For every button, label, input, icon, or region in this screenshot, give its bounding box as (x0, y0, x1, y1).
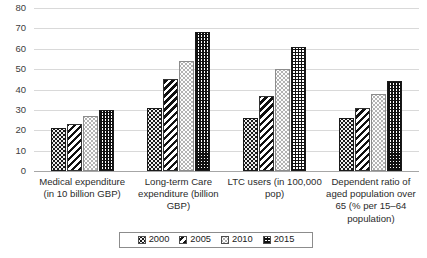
bar-group (227, 8, 323, 171)
y-tick-label-0: 0 (21, 166, 26, 176)
y-tick-label-20: 20 (15, 126, 26, 136)
category-label: Medical expenditure(in 10 billion GBP) (28, 176, 136, 200)
bar-2005 (67, 124, 82, 171)
bar-2000 (51, 128, 66, 171)
category-label-line: GBP) (124, 200, 232, 212)
bar-2010 (275, 69, 290, 171)
legend-swatch-icon (138, 236, 146, 244)
legend-item-2015[interactable]: 2015 (263, 235, 295, 244)
bar-2010 (179, 61, 194, 171)
category-label-line: Medical expenditure (28, 176, 136, 188)
y-axis-tick-labels: 01020304050607080 (0, 8, 30, 171)
legend-item-2000[interactable]: 2000 (138, 235, 170, 244)
legend-label: 2015 (274, 235, 295, 244)
legend-swatch-icon (221, 236, 229, 244)
category-label-line: LTC users (in 100,000 (221, 176, 329, 188)
bar-group (130, 8, 226, 171)
bar-2015 (195, 32, 210, 171)
legend-swatch-icon (179, 236, 187, 244)
bar-2015 (291, 47, 306, 171)
y-tick-label-10: 10 (15, 146, 26, 156)
bars-layer (34, 8, 419, 171)
y-tick-label-50: 50 (15, 64, 26, 74)
y-tick-label-30: 30 (15, 105, 26, 115)
legend-swatch-icon (263, 236, 271, 244)
bar-2000 (147, 108, 162, 171)
category-label: LTC users (in 100,000pop) (221, 176, 329, 200)
category-label-line: Long-term Care (124, 176, 232, 188)
bar-2000 (339, 118, 354, 171)
bar-2005 (259, 96, 274, 171)
category-label-line: pop) (221, 188, 329, 200)
category-label-line: Dependent ratio of (317, 176, 425, 188)
bar-2015 (99, 110, 114, 171)
y-tick-label-60: 60 (15, 44, 26, 54)
legend-item-2010[interactable]: 2010 (221, 235, 253, 244)
bar-2005 (163, 79, 178, 171)
bar-chart: 01020304050607080 Medical expenditure(in… (0, 0, 427, 258)
category-label: Dependent ratio ofaged population over65… (317, 176, 425, 225)
gridline-0 (34, 171, 419, 172)
x-axis-category-labels: Medical expenditure(in 10 billion GBP)Lo… (34, 176, 419, 232)
y-tick-label-70: 70 (15, 24, 26, 34)
category-label: Long-term Careexpenditure (billionGBP) (124, 176, 232, 213)
bar-group (34, 8, 130, 171)
category-label-line: expenditure (billion (124, 188, 232, 200)
category-label-line: (in 10 billion GBP) (28, 188, 136, 200)
bar-2000 (243, 118, 258, 171)
bar-2015 (387, 81, 402, 171)
y-tick-label-80: 80 (15, 3, 26, 13)
legend-label: 2010 (232, 235, 253, 244)
bar-group (323, 8, 419, 171)
legend-item-2005[interactable]: 2005 (179, 235, 211, 244)
plot-area (34, 8, 419, 171)
category-label-line: population) (317, 213, 425, 225)
bar-2010 (83, 116, 98, 171)
legend-label: 2000 (149, 235, 170, 244)
y-tick-label-40: 40 (15, 85, 26, 95)
bar-2005 (355, 108, 370, 171)
chart-legend: 2000200520102015 (119, 232, 313, 248)
category-label-line: 65 (% per 15–64 (317, 200, 425, 212)
category-label-line: aged population over (317, 188, 425, 200)
bar-2010 (371, 94, 386, 171)
legend-label: 2005 (190, 235, 211, 244)
